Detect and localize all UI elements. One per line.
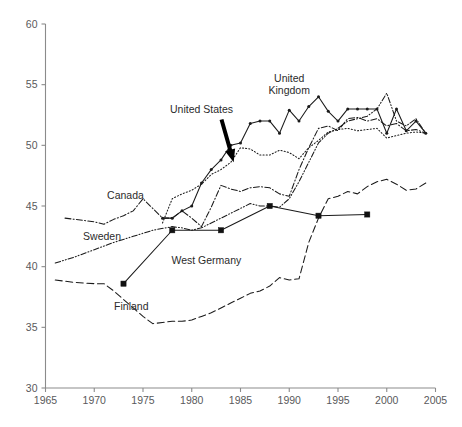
x-tick-label: 1995 — [326, 394, 350, 406]
y-tick-label: 35 — [26, 321, 38, 333]
data-point-marker — [170, 228, 175, 233]
data-point-marker — [249, 122, 252, 125]
data-point-marker — [200, 181, 203, 184]
data-point-marker — [337, 120, 340, 123]
data-point-marker — [121, 281, 126, 286]
data-point-marker — [161, 217, 164, 220]
canada-label: Canada — [107, 189, 144, 201]
sweden-label: Sweden — [83, 230, 121, 242]
data-point-marker — [220, 158, 223, 161]
chart-background — [0, 0, 462, 427]
data-point-marker — [298, 120, 301, 123]
data-point-marker — [365, 212, 370, 217]
y-tick-label: 55 — [26, 78, 38, 90]
data-point-marker — [356, 107, 359, 110]
data-point-marker — [316, 213, 321, 218]
data-point-marker — [376, 107, 379, 110]
data-point-marker — [267, 203, 272, 208]
data-point-marker — [405, 129, 408, 132]
data-point-marker — [278, 132, 281, 135]
y-tick-label: 45 — [26, 200, 38, 212]
y-tick-label: 60 — [26, 18, 38, 30]
data-point-marker — [346, 107, 349, 110]
x-tick-label: 1970 — [83, 394, 107, 406]
data-point-marker — [171, 217, 174, 220]
finland-label: Finland — [114, 300, 149, 312]
data-point-marker — [385, 132, 388, 135]
x-tick-label: 2000 — [375, 394, 399, 406]
data-point-marker — [366, 107, 369, 110]
data-point-marker — [288, 109, 291, 112]
line-chart-svg: 3035404550556019651970197519801985199019… — [0, 0, 462, 427]
data-point-marker — [317, 95, 320, 98]
y-tick-label: 30 — [26, 382, 38, 394]
x-tick-label: 1985 — [229, 394, 253, 406]
x-tick-label: 2005 — [424, 394, 448, 406]
data-point-marker — [239, 141, 242, 144]
x-tick-label: 1975 — [131, 394, 155, 406]
data-point-marker — [259, 120, 262, 123]
united-kingdom-label: UnitedKingdom — [269, 72, 311, 96]
data-point-marker — [190, 205, 193, 208]
x-tick-label: 1990 — [278, 394, 302, 406]
x-tick-label: 1980 — [180, 394, 204, 406]
west-germany-label: West Germany — [171, 254, 242, 266]
data-point-marker — [327, 110, 330, 113]
y-tick-label: 40 — [26, 260, 38, 272]
data-point-marker — [218, 228, 223, 233]
data-point-marker — [268, 120, 271, 123]
data-point-marker — [395, 107, 398, 110]
data-point-marker — [424, 132, 427, 135]
x-tick-label: 1965 — [34, 394, 58, 406]
data-point-marker — [210, 168, 213, 171]
united-states-callout: United States — [170, 103, 233, 115]
data-point-marker — [181, 209, 184, 212]
chart-figure: 3035404550556019651970197519801985199019… — [0, 0, 462, 427]
y-tick-label: 50 — [26, 139, 38, 151]
data-point-marker — [307, 105, 310, 108]
data-point-marker — [415, 120, 418, 123]
